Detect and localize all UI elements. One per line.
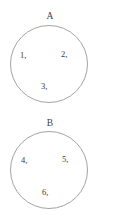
set-member: 3, <box>41 81 47 91</box>
set-member: 6, <box>42 187 48 197</box>
set-diagram-a: A 1, 2, 3, <box>0 0 100 111</box>
set-circle-b <box>10 131 88 209</box>
set-label-a: A <box>0 11 100 22</box>
set-circle-a <box>10 25 88 103</box>
set-member: 1, <box>20 50 26 60</box>
set-member: 2, <box>61 49 67 59</box>
diagram-canvas: A 1, 2, 3, B 4, 5, 6, <box>0 0 117 222</box>
set-label-b: B <box>0 118 100 129</box>
set-member: 4, <box>21 155 27 165</box>
set-diagram-b: B 4, 5, 6, <box>0 107 100 222</box>
set-member: 5, <box>62 154 68 164</box>
